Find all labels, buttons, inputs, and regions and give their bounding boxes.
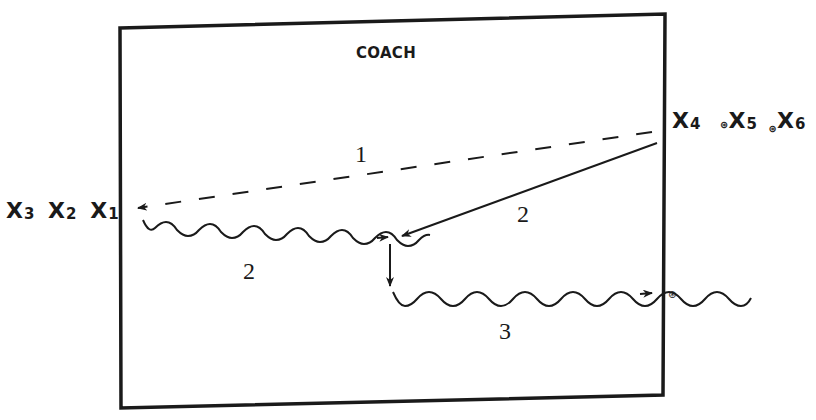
ball-icon: ⊛ (668, 290, 676, 300)
player-x2: X2 (48, 198, 76, 223)
drill-diagram: COACH X3 X2 X1 X4 ⊛X5 ⊛X6 ⊛ 1 2 2 3 (0, 0, 816, 420)
coach-label: COACH (356, 44, 416, 62)
left-player-group: X3 X2 X1 (6, 200, 119, 224)
dribble-3-arrowhead (640, 293, 652, 294)
player-x4: X4 (672, 108, 700, 133)
step-label-dribble-2: 2 (243, 259, 255, 283)
dribble-3-wavy-arrow (393, 292, 751, 306)
player-x5: X5 (728, 108, 756, 133)
step-label-dribble-3: 3 (499, 319, 511, 343)
step-label-pass-1: 1 (355, 142, 367, 166)
player-x3: X3 (6, 198, 34, 223)
right-player-group: X4 ⊛X5 ⊛X6 (672, 110, 805, 134)
dribble-2-arrowhead (377, 237, 388, 238)
player-x1: X1 (90, 198, 118, 223)
dribble-2-wavy-arrow (143, 220, 430, 246)
pass-1-dashed-arrow (138, 132, 652, 208)
run-2-solid-arrow (402, 143, 657, 236)
player-x6: X6 (777, 108, 805, 133)
step-label-run-2: 2 (517, 202, 529, 226)
ball-icon: ⊛ (769, 123, 777, 134)
field-boundary (120, 14, 665, 408)
diagram-canvas (0, 0, 816, 420)
